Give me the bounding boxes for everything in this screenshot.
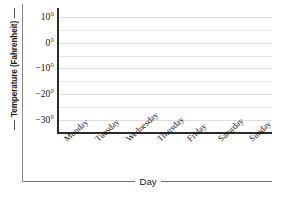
gridline	[57, 68, 272, 69]
x-axis-tick-labels: MondayTuesdayWednesdayThursdayFridaySatu…	[57, 134, 272, 174]
temperature-chart: Temperature (Fahrenheit) 10°0°−10°−20°−3…	[0, 0, 281, 197]
gridline	[57, 17, 272, 18]
gridline	[57, 30, 272, 31]
x-axis-title-rule-left	[24, 181, 135, 182]
y-tick-label: −10°	[8, 63, 54, 73]
gridline	[57, 81, 272, 82]
gridline	[57, 43, 272, 44]
gridline	[57, 56, 272, 57]
x-axis-title: Day	[24, 174, 272, 188]
y-tick-label: −20°	[8, 89, 54, 99]
y-axis-line	[57, 8, 59, 134]
y-tick-label: 0°	[8, 38, 54, 48]
y-axis-tick-labels: 10°0°−10°−20°−30°	[6, 9, 54, 133]
plot-area	[57, 9, 272, 133]
y-tick-label: 10°	[8, 12, 54, 22]
x-axis-title-text: Day	[140, 176, 157, 187]
y-tick-label: −30°	[8, 115, 54, 125]
x-axis-title-rule-right	[161, 181, 272, 182]
gridline	[57, 94, 272, 95]
gridline	[57, 107, 272, 108]
